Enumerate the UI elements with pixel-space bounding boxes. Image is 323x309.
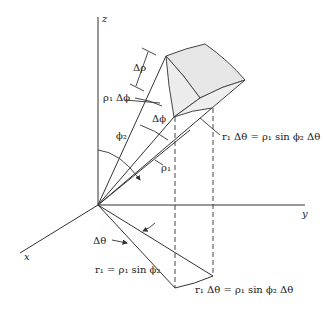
- z-axis-label: z: [101, 13, 108, 24]
- arc-top-label: r₁ Δθ = ρ₁ sin ϕ₂ Δθ: [222, 131, 320, 142]
- arc-bottom-label: r₁ Δθ = ρ₁ sin ϕ₂ Δθ: [195, 284, 293, 295]
- rho1-delta-phi-label: ρ₁ Δϕ: [103, 92, 130, 103]
- r1-equation-label: r₁ = ρ₁ sin ϕ₂: [95, 264, 160, 275]
- y-axis-label: y: [301, 208, 308, 219]
- delta-theta-arrow: [143, 223, 155, 231]
- x-axis: [20, 205, 98, 253]
- delta-theta-label: Δθ: [93, 235, 106, 246]
- arc-top-leader: [200, 118, 220, 135]
- delta-rho-label: Δρ: [133, 62, 146, 73]
- x-axis-label: x: [24, 251, 30, 262]
- ray-phi1: [98, 56, 166, 205]
- proj-ray-1: [98, 205, 175, 288]
- delta-phi-arc: [140, 125, 168, 140]
- volume-element: [166, 44, 245, 117]
- ray-rho1: [98, 130, 190, 205]
- rho1-dphi-leader: [125, 100, 160, 103]
- delta-phi-label: Δϕ: [152, 113, 166, 124]
- spherical-volume-diagram: z y x Δρ ρ₁ Δϕ Δϕ ϕ₂ ρ₁ r₁ Δθ = ρ₁ sin ϕ…: [0, 0, 323, 309]
- ray-phi2: [98, 117, 174, 205]
- delta-theta-leader: [112, 240, 127, 243]
- phi2-label: ϕ₂: [116, 130, 127, 141]
- rho1-label: ρ₁: [161, 162, 171, 173]
